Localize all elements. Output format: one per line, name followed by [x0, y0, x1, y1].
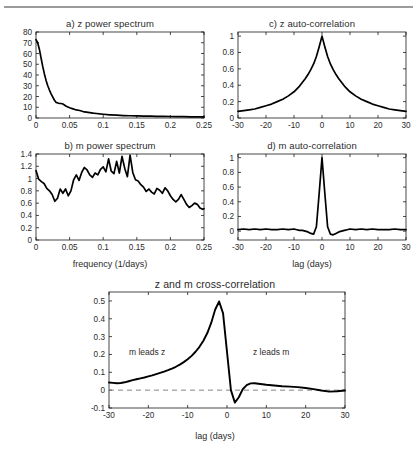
- svg-text:0.2: 0.2: [223, 212, 235, 221]
- svg-text:0.1: 0.1: [98, 121, 110, 130]
- svg-text:0.2: 0.2: [94, 350, 106, 359]
- panel-b-axes: 00.050.10.150.20.2500.20.40.60.811.21.4: [10, 140, 210, 258]
- svg-text:0.4: 0.4: [94, 315, 106, 324]
- svg-text:0.6: 0.6: [223, 183, 235, 192]
- svg-text:0.05: 0.05: [62, 121, 78, 130]
- svg-text:0.2: 0.2: [21, 224, 33, 233]
- svg-text:80: 80: [23, 28, 33, 37]
- svg-text:0: 0: [34, 243, 39, 252]
- panel-e-axes: -30-20-100102030-0.100.10.20.30.40.5: [75, 278, 355, 430]
- svg-text:50: 50: [23, 60, 33, 69]
- svg-text:10: 10: [262, 411, 272, 420]
- svg-text:-10: -10: [288, 121, 300, 130]
- svg-text:0.25: 0.25: [196, 121, 212, 130]
- panel-d-data-line: [238, 158, 406, 235]
- svg-text:20: 20: [373, 243, 383, 252]
- svg-text:0.15: 0.15: [129, 243, 145, 252]
- figure-canvas: a) z power spectrum 00.050.10.150.20.250…: [0, 0, 417, 464]
- svg-text:1.4: 1.4: [21, 150, 33, 159]
- panel-b-xlabel: frequency (1/days): [10, 259, 210, 269]
- panel-c-axes: -30-20-10010203000.20.40.60.81: [212, 18, 412, 136]
- svg-text:-10: -10: [182, 411, 194, 420]
- svg-text:10: 10: [345, 121, 355, 130]
- svg-text:20: 20: [23, 93, 33, 102]
- svg-text:30: 30: [340, 411, 350, 420]
- svg-text:0: 0: [229, 114, 234, 123]
- svg-text:0.5: 0.5: [94, 297, 106, 306]
- svg-text:60: 60: [23, 50, 33, 59]
- svg-text:-0.1: -0.1: [91, 404, 106, 413]
- svg-text:0.6: 0.6: [223, 65, 235, 74]
- svg-text:0.05: 0.05: [62, 243, 78, 252]
- svg-text:-20: -20: [260, 243, 272, 252]
- svg-text:-30: -30: [232, 243, 244, 252]
- scan-top-rule: [4, 6, 413, 8]
- svg-text:0.4: 0.4: [223, 81, 235, 90]
- panel-e-cross-correlation: z and m cross-correlation -30-20-1001020…: [75, 278, 355, 458]
- svg-text:0.25: 0.25: [196, 243, 212, 252]
- panel-a-z-power-spectrum: a) z power spectrum 00.050.10.150.20.250…: [10, 18, 210, 136]
- panel-a-axes: 00.050.10.150.20.2501020304050607080: [10, 18, 210, 136]
- svg-text:20: 20: [373, 121, 383, 130]
- svg-text:1.2: 1.2: [21, 162, 33, 171]
- svg-text:0.8: 0.8: [223, 48, 235, 57]
- svg-text:10: 10: [345, 243, 355, 252]
- svg-text:0.3: 0.3: [94, 333, 106, 342]
- svg-text:1: 1: [229, 32, 234, 41]
- svg-text:0.2: 0.2: [223, 98, 235, 107]
- annotation-z-leads-m: z leads m: [253, 347, 289, 357]
- svg-text:10: 10: [23, 103, 33, 112]
- svg-text:0.1: 0.1: [98, 243, 110, 252]
- panel-a-data-line: [36, 40, 204, 117]
- panel-b-data-line: [36, 155, 204, 209]
- svg-text:0.8: 0.8: [21, 187, 33, 196]
- svg-text:0.4: 0.4: [21, 211, 33, 220]
- panel-e-xlabel: lag (days): [75, 431, 355, 441]
- svg-text:20: 20: [301, 411, 311, 420]
- panel-c-z-autocorrelation: c) z auto-correlation -30-20-10010203000…: [212, 18, 412, 136]
- panel-d-xlabel: lag (days): [212, 259, 412, 269]
- svg-text:30: 30: [401, 243, 411, 252]
- svg-text:0: 0: [320, 243, 325, 252]
- svg-text:0.6: 0.6: [21, 199, 33, 208]
- annotation-m-leads-z: m leads z: [129, 347, 165, 357]
- svg-text:0.2: 0.2: [165, 243, 177, 252]
- svg-text:-10: -10: [288, 243, 300, 252]
- svg-text:0.15: 0.15: [129, 121, 145, 130]
- svg-text:0: 0: [27, 236, 32, 245]
- svg-text:30: 30: [23, 82, 33, 91]
- panel-d-m-autocorrelation: d) m auto-correlation -30-20-10010203000…: [212, 140, 412, 270]
- svg-text:0: 0: [100, 386, 105, 395]
- svg-text:1: 1: [229, 154, 234, 163]
- panel-c-data-line: [238, 36, 406, 111]
- panel-d-axes: -30-20-10010203000.20.40.60.81: [212, 140, 412, 258]
- svg-text:0.2: 0.2: [165, 121, 177, 130]
- svg-text:0.8: 0.8: [223, 168, 235, 177]
- svg-text:1: 1: [27, 175, 32, 184]
- svg-text:-20: -20: [260, 121, 272, 130]
- svg-text:0: 0: [225, 411, 230, 420]
- svg-text:40: 40: [23, 71, 33, 80]
- svg-text:0.4: 0.4: [223, 198, 235, 207]
- svg-text:0: 0: [229, 227, 234, 236]
- svg-text:-20: -20: [142, 411, 154, 420]
- svg-text:0: 0: [34, 121, 39, 130]
- svg-text:0.1: 0.1: [94, 368, 106, 377]
- panel-b-m-power-spectrum: b) m power spectrum 00.050.10.150.20.250…: [10, 140, 210, 270]
- svg-text:0: 0: [27, 114, 32, 123]
- svg-text:70: 70: [23, 39, 33, 48]
- svg-text:30: 30: [401, 121, 411, 130]
- svg-text:0: 0: [320, 121, 325, 130]
